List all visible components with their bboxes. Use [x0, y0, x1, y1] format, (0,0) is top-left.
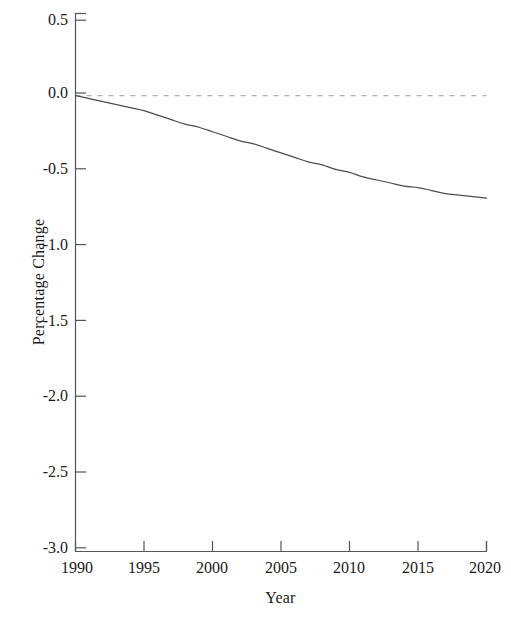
- data-series-line: [76, 96, 487, 199]
- x-axis-title: Year: [75, 589, 486, 607]
- x-tick-label: 2010: [314, 560, 384, 576]
- x-tick-label: 2005: [246, 560, 316, 576]
- chart-figure: 0.5 0.0 -0.5 -1.0 -1.5 -2.0 -2.5 -3.0 19…: [0, 0, 511, 617]
- x-tick-marks: [76, 541, 487, 552]
- x-tick-label: 1995: [109, 560, 179, 576]
- x-tick-label: 2015: [383, 560, 453, 576]
- x-tick-labels: 1990 1995 2000 2005 2010 2015 2020: [0, 560, 511, 584]
- x-tick-label: 2000: [177, 560, 247, 576]
- y-axis-title: Percentage Change: [26, 13, 52, 551]
- axis-frame: [75, 13, 487, 552]
- y-tick-marks: [76, 20, 87, 548]
- x-tick-label: 2020: [450, 560, 511, 576]
- plot-area: [0, 0, 511, 617]
- x-tick-label: 1990: [42, 560, 112, 576]
